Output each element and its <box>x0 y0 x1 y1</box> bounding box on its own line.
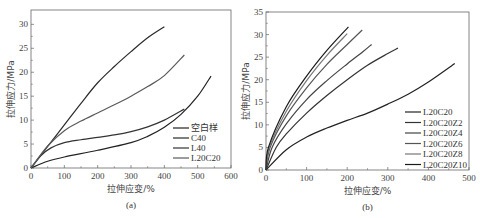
y-tick-label: 0 <box>24 163 29 173</box>
y-tick-label: 30 <box>19 19 29 29</box>
y-tick-label: 20 <box>254 75 264 85</box>
legend-label: L40 <box>191 143 206 153</box>
series-line <box>266 45 372 170</box>
x-tick-label: 200 <box>340 173 354 183</box>
chart-panel-a: 0100200300400500600051015202530拉伸应变/%拉伸应… <box>5 10 238 210</box>
y-tick-label: 20 <box>19 67 29 77</box>
y-tick-label: 25 <box>19 43 29 53</box>
x-axis-label: 拉伸应变/% <box>344 185 392 196</box>
legend-label: C40 <box>191 133 207 143</box>
y-tick-label: 15 <box>254 97 264 107</box>
legend-label: L20C20Z4 <box>423 128 463 138</box>
y-tick-label: 10 <box>254 120 264 130</box>
legend-label: L20C20Z6 <box>423 139 463 149</box>
series-line <box>31 76 211 168</box>
x-tick-label: 600 <box>224 171 238 181</box>
x-tick-label: 300 <box>124 171 138 181</box>
y-tick-label: 0 <box>259 165 264 175</box>
figure: 0100200300400500600051015202530拉伸应变/%拉伸应… <box>0 0 480 218</box>
panel-caption: (b) <box>362 202 373 212</box>
legend-label: L20C20 <box>423 107 453 117</box>
x-axis-label: 拉伸应变/% <box>107 183 155 194</box>
series-line <box>266 30 362 170</box>
y-tick-label: 5 <box>259 142 264 152</box>
x-tick-label: 500 <box>462 173 476 183</box>
series-line <box>266 34 347 170</box>
x-tick-label: 300 <box>381 173 395 183</box>
x-tick-label: 500 <box>191 171 205 181</box>
x-tick-label: 200 <box>91 171 105 181</box>
legend-label: L20C20Z2 <box>423 118 463 128</box>
legend-label: 空白样 <box>191 122 218 133</box>
y-tick-label: 25 <box>254 52 264 62</box>
chart-panel-b: 010020030040050005101520253035拉伸应变/%拉伸应力… <box>240 7 476 212</box>
series-line <box>31 27 164 168</box>
y-axis-label: 拉伸应力/MPa <box>5 60 16 117</box>
y-axis-label: 拉伸应力/MPa <box>240 62 251 119</box>
y-tick-label: 15 <box>19 91 29 101</box>
x-tick-label: 0 <box>264 173 269 183</box>
legend-label: L20C20Z10 <box>423 160 467 170</box>
y-tick-label: 30 <box>254 30 264 40</box>
chart-canvas: 0100200300400500600051015202530拉伸应变/%拉伸应… <box>0 0 480 218</box>
y-tick-label: 10 <box>19 115 29 125</box>
legend-label: L20C20Z8 <box>423 149 463 159</box>
x-tick-label: 400 <box>158 171 172 181</box>
x-tick-label: 100 <box>58 171 72 181</box>
x-tick-label: 0 <box>29 171 34 181</box>
x-tick-label: 400 <box>422 173 436 183</box>
x-tick-label: 100 <box>300 173 314 183</box>
y-tick-label: 5 <box>24 139 29 149</box>
panel-caption: (a) <box>126 200 136 210</box>
y-tick-label: 35 <box>254 7 264 17</box>
legend-label: L20C20 <box>191 153 221 163</box>
